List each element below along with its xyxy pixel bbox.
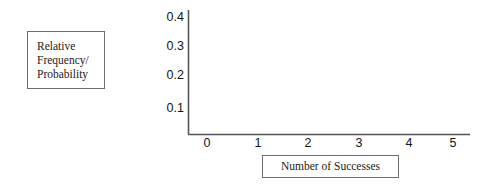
x-tick-1: 1 xyxy=(246,136,270,152)
y-tick-0.4: 0.4 xyxy=(152,10,184,25)
y-tick-0.3: 0.3 xyxy=(152,39,184,54)
y-tick-label: 0.2 xyxy=(152,68,184,82)
chart-figure: Relative Frequency/ Probability 0.4 0.3 … xyxy=(0,0,495,196)
plot-area xyxy=(189,10,470,134)
x-tick-label: 0 xyxy=(195,136,219,150)
x-tick-label: 4 xyxy=(397,136,421,150)
x-tick-3: 3 xyxy=(347,136,371,152)
x-axis-title-text: Number of Successes xyxy=(281,159,380,173)
x-tick-5: 5 xyxy=(441,136,465,152)
x-tick-label: 3 xyxy=(347,136,371,150)
x-tick-label: 5 xyxy=(441,136,465,150)
y-tick-label: 0.3 xyxy=(152,39,184,53)
x-tick-2: 2 xyxy=(296,136,320,152)
x-tick-label: 2 xyxy=(296,136,320,150)
y-tick-label: 0.4 xyxy=(152,10,184,24)
x-tick-0: 0 xyxy=(195,136,219,152)
x-tick-4: 4 xyxy=(397,136,421,152)
x-tick-label: 1 xyxy=(246,136,270,150)
y-tick-0.1: 0.1 xyxy=(152,101,184,116)
y-tick-label: 0.1 xyxy=(152,101,184,115)
y-tick-0.2: 0.2 xyxy=(152,68,184,83)
x-axis-title-box: Number of Successes xyxy=(262,155,399,178)
